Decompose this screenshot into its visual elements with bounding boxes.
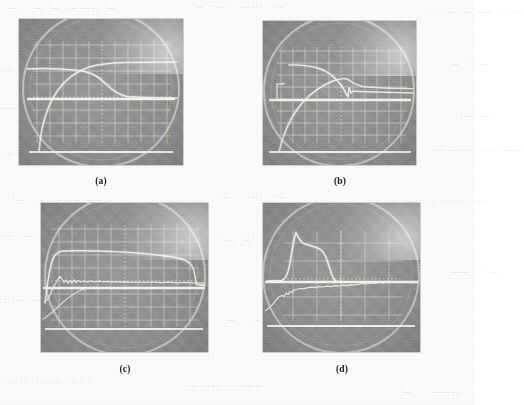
bleedthrough-text: ·— —— ·· ———: [186, 382, 264, 390]
oscilloscope-photo-c: [41, 203, 208, 352]
crt-trace-b: [263, 21, 416, 165]
oscilloscope-photo-d: [263, 203, 420, 352]
bleedthrough-text: ··— ·—: [456, 112, 491, 120]
oscilloscope-photo-a: [19, 19, 183, 165]
bleedthrough-text: ·—· ·· ———: [400, 388, 461, 396]
crt-trace-c: [41, 203, 208, 352]
bleedthrough-text: — ·· ·—·· ·—: [222, 193, 286, 201]
bleedthrough-text: · — ·· — ·—· — —— ·—: [2, 4, 117, 12]
bleedthrough-text: — ··—· · ——·· ·—: [196, 3, 286, 11]
bleedthrough-text: —— ·· ·—: [452, 268, 500, 276]
bleedthrough-text: — ·· ·—: [452, 60, 491, 68]
crt-trace-d: [263, 203, 420, 352]
caption-b: (b): [300, 176, 380, 186]
caption-d: (d): [302, 364, 382, 374]
caption-c: (c): [85, 364, 165, 374]
bleedthrough-text: ·— ——— ·—·· ——: [432, 146, 524, 154]
bleedthrough-text: ·—· ·—: [0, 232, 35, 240]
bleedthrough-text: ·—·· ·· —— ·—· ·: [6, 378, 92, 386]
caption-a: (a): [61, 176, 141, 186]
bleedthrough-text: ··· — ·— —— ·· —·: [430, 8, 524, 16]
crt-trace-a: [19, 19, 183, 165]
oscilloscope-photo-b: [263, 21, 416, 165]
